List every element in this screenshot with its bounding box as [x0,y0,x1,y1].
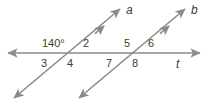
line-label-t: t [176,58,179,70]
angle-label-3: 3 [41,58,47,69]
angle-label-140: 140° [42,38,65,49]
angle-label-7: 7 [106,58,112,69]
angle-label-6: 6 [148,38,154,49]
angle-label-5: 5 [124,38,130,49]
geometry-figure: a b t 140° 2 3 4 5 6 7 8 [0,0,208,108]
angle-label-2: 2 [83,38,89,49]
angle-label-8: 8 [132,58,138,69]
line-label-b: b [191,4,198,16]
line-label-a: a [126,4,133,16]
angle-label-4: 4 [67,58,73,69]
figure-canvas [0,0,208,108]
